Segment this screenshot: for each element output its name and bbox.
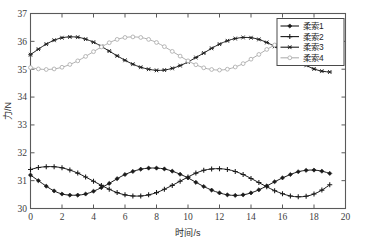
y-tick-label: 37: [18, 9, 28, 19]
data-point-marker: [68, 63, 72, 67]
data-point-marker: [241, 62, 245, 66]
data-point-marker: [84, 55, 88, 59]
data-point-marker: [218, 68, 222, 72]
x-tick-label: 2: [60, 212, 65, 222]
data-point-marker: [36, 67, 40, 71]
data-point-marker: [225, 67, 229, 71]
chart-legend[interactable]: 柔索1柔索2柔索3柔索4: [277, 19, 344, 66]
line-chart-canvas: 02468101214161820 3031323334353637 时间/s …: [0, 0, 366, 246]
x-tick-label: 16: [278, 212, 288, 222]
x-tick-label: 20: [341, 212, 351, 222]
data-point-marker: [233, 65, 237, 69]
x-tick-label: 6: [123, 212, 128, 222]
data-point-marker: [273, 43, 277, 47]
data-point-marker: [139, 36, 143, 40]
data-point-marker: [131, 35, 135, 39]
data-point-marker: [123, 36, 127, 40]
y-tick-label: 30: [18, 204, 28, 214]
y-tick-label: 31: [18, 176, 28, 186]
y-tick-label: 35: [18, 65, 28, 75]
legend-label: 柔索2: [303, 32, 324, 42]
data-point-marker: [155, 41, 159, 45]
x-tick-label: 14: [246, 212, 256, 222]
x-tick-label: 10: [183, 212, 193, 222]
data-point-marker: [162, 45, 166, 49]
y-axis-title: 力/N: [2, 102, 13, 120]
x-tick-label: 4: [91, 212, 96, 222]
x-tick-label: 8: [154, 212, 159, 222]
y-tick-label: 36: [18, 37, 28, 47]
data-point-marker: [249, 57, 253, 61]
data-point-marker: [76, 59, 80, 63]
y-tick-label: 33: [18, 120, 28, 130]
x-tick-label: 0: [28, 212, 33, 222]
data-point-marker: [194, 63, 198, 67]
data-point-marker: [147, 38, 151, 42]
data-point-marker: [288, 56, 292, 60]
data-point-marker: [265, 48, 269, 52]
legend-label: 柔索1: [303, 21, 324, 31]
data-point-marker: [170, 49, 174, 53]
data-point-marker: [92, 50, 96, 54]
data-point-marker: [202, 66, 206, 70]
x-tick-label: 12: [215, 212, 225, 222]
data-point-marker: [115, 38, 119, 42]
data-point-marker: [178, 54, 182, 58]
data-point-marker: [52, 67, 56, 71]
x-axis-title: 时间/s: [175, 227, 201, 238]
data-point-marker: [257, 53, 261, 57]
y-tick-label: 34: [18, 92, 28, 102]
legend-label: 柔索4: [303, 53, 324, 63]
data-point-marker: [107, 41, 111, 45]
data-point-marker: [44, 68, 48, 72]
data-point-marker: [60, 65, 64, 69]
data-point-marker: [99, 45, 103, 49]
legend-label: 柔索3: [303, 42, 324, 52]
y-tick-label: 32: [18, 148, 28, 158]
data-point-marker: [186, 59, 190, 63]
chart-figure: 02468101214161820 3031323334353637 时间/s …: [0, 0, 366, 246]
x-tick-label: 18: [309, 212, 319, 222]
data-point-marker: [210, 68, 214, 72]
data-point-marker: [29, 66, 33, 70]
